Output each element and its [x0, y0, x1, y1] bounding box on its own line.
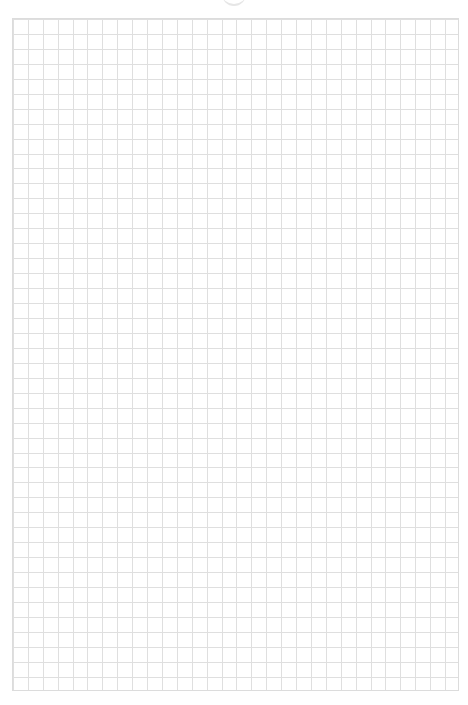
binding-ring-icon	[222, 0, 246, 6]
graph-paper-grid	[12, 18, 459, 691]
